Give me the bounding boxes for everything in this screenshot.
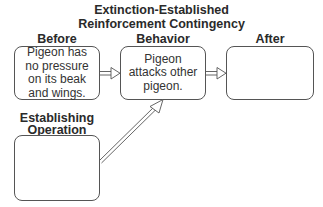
arrow-before-to-behavior-icon <box>100 68 120 80</box>
arrow-behavior-to-after-icon <box>206 68 226 80</box>
arrows-layer <box>0 0 323 207</box>
arrow-establishing-to-behavior-icon <box>100 100 163 164</box>
